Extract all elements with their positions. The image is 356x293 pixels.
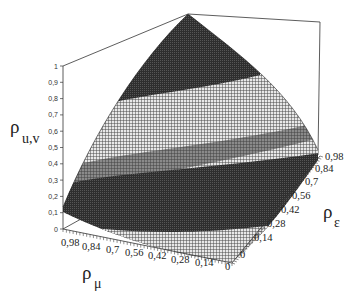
- z-axis-tick-labels: 0 0,1 0,2 0,3 0,4 0,5 0,6 0,7 0,8 0,9 1: [48, 63, 58, 233]
- z-tick-0: 0: [54, 226, 58, 233]
- svg-text:ε: ε: [334, 215, 340, 230]
- x-tick-5: 0,28: [171, 254, 189, 265]
- surface-plot: 0 0,1 0,2 0,3 0,4 0,5 0,6 0,7 0,8 0,9 1 …: [0, 0, 356, 293]
- z-axis-ticks: [60, 66, 63, 229]
- x-tick-1: 0,84: [82, 241, 101, 252]
- z-tick-8: 0,8: [48, 95, 58, 102]
- y-tick-6: 0,84: [315, 163, 334, 174]
- y-tick-4: 0,56: [292, 190, 310, 201]
- y-tick-1: 0,14: [254, 232, 273, 243]
- y-tick-7: 0,98: [325, 151, 343, 162]
- y-axis-title: ρ ε: [323, 201, 340, 230]
- surface: [40, 0, 340, 280]
- x-tick-6: 0,14: [195, 257, 214, 268]
- z-axis-title: ρ u,v: [10, 116, 40, 146]
- x-tick-7: 0: [225, 261, 230, 272]
- svg-text:ρ: ρ: [82, 262, 91, 283]
- y-tick-3: 0,42: [281, 204, 299, 215]
- x-tick-0: 0,98: [61, 237, 79, 248]
- z-tick-10: 1: [54, 63, 58, 70]
- svg-text:ρ: ρ: [10, 116, 19, 137]
- z-tick-1: 0,1: [48, 209, 58, 216]
- x-tick-2: 0,7: [106, 244, 119, 255]
- svg-text:μ: μ: [94, 276, 102, 291]
- x-tick-3: 0,56: [125, 247, 143, 258]
- z-tick-5: 0,5: [48, 144, 58, 151]
- y-tick-2: 0,28: [267, 218, 285, 229]
- z-tick-3: 0,3: [48, 177, 58, 184]
- x-tick-4: 0,42: [148, 250, 166, 261]
- svg-text:u,v: u,v: [22, 131, 40, 146]
- z-tick-2: 0,2: [48, 193, 58, 200]
- svg-text:ρ: ρ: [323, 201, 332, 222]
- z-tick-9: 0,9: [48, 79, 58, 86]
- z-tick-7: 0,7: [48, 111, 58, 118]
- z-tick-4: 0,4: [48, 160, 58, 167]
- y-tick-5: 0,7: [305, 176, 318, 187]
- x-axis-title: ρ μ: [82, 262, 102, 291]
- y-tick-0: 0: [240, 249, 245, 260]
- z-tick-6: 0,6: [48, 128, 58, 135]
